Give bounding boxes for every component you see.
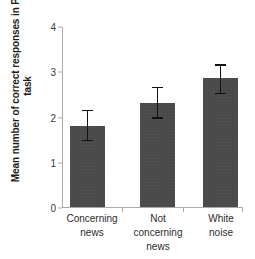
bar-chart-figure: Mean number of correct responses in PM t… (0, 0, 255, 259)
error-bar-white-noise (220, 64, 221, 94)
error-cap-bottom (215, 93, 226, 94)
x-tick-label-line: concerning (123, 226, 193, 240)
x-tick-label-white-noise: White noise (186, 212, 255, 240)
x-tick-label-not-concerning-news: Not concerning news (123, 212, 193, 254)
y-tick-mark-4 (58, 27, 62, 28)
y-axis-title-line-1: Mean number of correct responses in PM (10, 0, 23, 182)
error-cap-top (152, 87, 163, 88)
y-tick-mark-1 (58, 162, 62, 163)
y-axis-title: Mean number of correct responses in PM t… (0, 0, 44, 186)
y-axis-title-line-2: task (22, 76, 35, 96)
y-tick-mark-2 (58, 117, 62, 118)
x-tick-label-line: Concerning (57, 212, 127, 226)
x-tick-label-concerning-news: Concerning news (57, 212, 127, 240)
y-tick-label-4: 4 (50, 22, 56, 33)
y-tick-label-3: 3 (50, 67, 56, 78)
y-tick-label-2: 2 (50, 112, 56, 123)
y-tick-mark-0 (58, 208, 62, 209)
x-axis-tick-labels: Concerning news Not concerning news Whit… (62, 212, 243, 258)
y-axis-line (62, 27, 63, 208)
x-tick-label-line: White (186, 212, 255, 226)
bar-white-noise (203, 78, 238, 207)
y-tick-mark-3 (58, 72, 62, 73)
error-bar-not-concerning-news (157, 87, 158, 119)
error-cap-top (215, 64, 226, 65)
error-bar-concerning-news (87, 110, 88, 142)
error-cap-bottom (152, 117, 163, 118)
x-tick-label-line: news (57, 226, 127, 240)
y-tick-label-0: 0 (50, 203, 56, 214)
error-cap-bottom (82, 140, 93, 141)
x-tick-label-line: noise (186, 226, 255, 240)
error-cap-top (82, 110, 93, 111)
y-tick-label-1: 1 (50, 157, 56, 168)
x-tick-label-line: Not (123, 212, 193, 226)
x-axis-line (62, 207, 243, 208)
plot-area: 4 3 2 1 0 (62, 27, 243, 208)
x-tick-label-line: news (123, 240, 193, 254)
